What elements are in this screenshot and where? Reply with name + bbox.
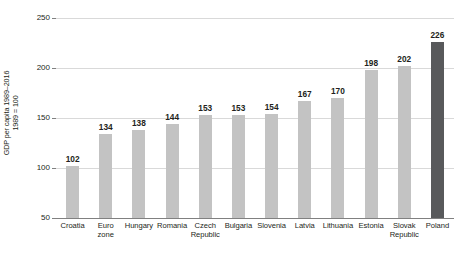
bar-value-label: 202: [384, 55, 424, 64]
bar-group[interactable]: 226: [431, 18, 444, 218]
bar-value-label: 102: [53, 155, 93, 164]
bar[interactable]: [232, 115, 245, 218]
bar-group[interactable]: 144: [166, 18, 179, 218]
bar[interactable]: [132, 130, 145, 218]
gridline-100: [56, 168, 454, 169]
bar-group[interactable]: 167: [298, 18, 311, 218]
bar-group[interactable]: 170: [331, 18, 344, 218]
bar[interactable]: [365, 70, 378, 218]
x-label-line: Poland: [417, 221, 457, 230]
gridline-200: [56, 68, 454, 69]
y-axis-title-line-1: GDP per capita 1989–2016: [2, 70, 11, 155]
y-axis-title-line-2: 1989 = 100: [11, 70, 20, 155]
bar-chart: GDP per capita 1989–2016 1989 = 100 5010…: [0, 0, 457, 255]
bar-group[interactable]: 198: [365, 18, 378, 218]
plot-area: 102134138144153153154167170198202226: [56, 18, 454, 218]
y-tick-label-200: 200: [22, 64, 50, 72]
y-tick-label-50: 50: [22, 214, 50, 222]
x-label-line: Republic: [185, 230, 226, 239]
bar-group[interactable]: 202: [398, 18, 411, 218]
bar-value-label: 154: [252, 103, 292, 112]
bar-value-label: 170: [318, 87, 358, 96]
bar[interactable]: [166, 124, 179, 218]
gridline-50: [56, 218, 454, 219]
y-tick-label-150: 150: [22, 114, 50, 122]
x-label-line: zone: [85, 230, 126, 239]
bar-group[interactable]: 153: [199, 18, 212, 218]
x-axis-label: Poland: [417, 221, 457, 230]
bar-group[interactable]: 134: [99, 18, 112, 218]
bar-group[interactable]: 102: [66, 18, 79, 218]
gridline-150: [56, 118, 454, 119]
bar[interactable]: [298, 101, 311, 218]
y-tick-label-250: 250: [22, 14, 50, 22]
bar-group[interactable]: 138: [132, 18, 145, 218]
bar[interactable]: [66, 166, 79, 218]
bar[interactable]: [398, 66, 411, 218]
bar-value-label: 226: [417, 31, 457, 40]
gridline-250: [56, 18, 454, 19]
bar-group[interactable]: 153: [232, 18, 245, 218]
x-label-line: Republic: [384, 230, 425, 239]
x-axis-labels: CroatiaEurozoneHungaryRomaniaCzechRepubl…: [56, 221, 454, 255]
bar[interactable]: [199, 115, 212, 218]
bar-group[interactable]: 154: [265, 18, 278, 218]
bar[interactable]: [431, 42, 444, 218]
y-tick-label-100: 100: [22, 164, 50, 172]
bar[interactable]: [99, 134, 112, 218]
bar[interactable]: [331, 98, 344, 218]
bar-value-label: 144: [152, 113, 192, 122]
bar[interactable]: [265, 114, 278, 218]
y-axis-title: GDP per capita 1989–2016 1989 = 100: [0, 0, 22, 225]
